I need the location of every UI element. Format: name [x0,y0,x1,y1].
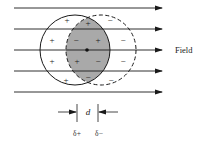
charge-sign: + [49,56,54,66]
charge-sign: + [74,56,79,66]
charge-sign: − [85,72,90,82]
charge-sign: − [95,56,100,66]
separation-label: d [86,107,91,117]
positive-center-label: δ+ [73,129,81,138]
charge-sign: + [49,35,54,45]
field-label: Field [175,45,193,55]
charge-sign: − [120,35,125,45]
negative-center-label: δ− [95,129,103,138]
charge-sign: − [73,35,78,45]
charge-sign: − [108,75,113,85]
polarization-diagram: + + − + − + − + + − − + − − Field d δ+ δ… [0,0,209,143]
charge-sign: + [64,15,69,25]
charge-sign: − [120,56,125,66]
nucleus-dot [85,48,89,52]
charge-sign: + [63,75,68,85]
charge-sign: − [107,15,112,25]
charge-sign: + [95,35,100,45]
charge-sign: + [85,18,90,28]
